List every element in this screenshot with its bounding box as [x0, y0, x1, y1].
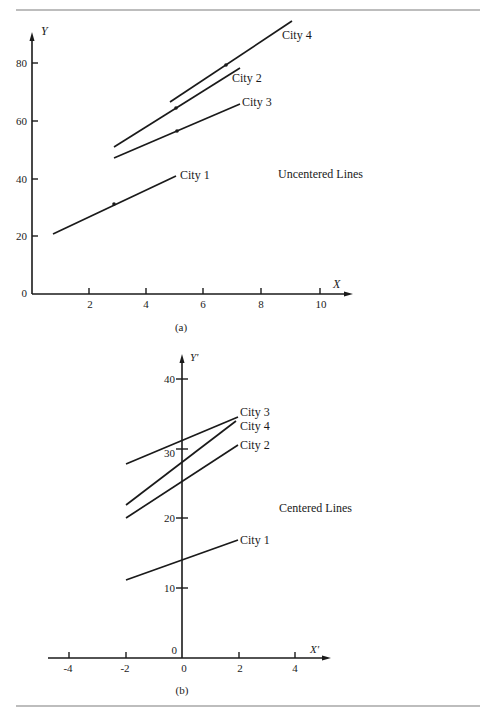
svg-text:40: 40	[16, 173, 28, 185]
svg-text:6: 6	[200, 298, 206, 310]
svg-text:20: 20	[164, 512, 176, 524]
centered-series-labels: City 1 City 2 City 3 City 4	[240, 405, 270, 547]
svg-text:60: 60	[16, 115, 28, 127]
y-ticks	[32, 63, 38, 236]
svg-text:0: 0	[181, 662, 187, 674]
marker-city-1	[112, 202, 116, 206]
svg-text:10: 10	[164, 582, 176, 594]
chart-a-uncentered: Y X 0 20 40 60 80 2 4 6 8 10	[0, 0, 488, 340]
centered-line-city-3	[126, 417, 238, 464]
x-axis-label: X	[332, 277, 341, 291]
marker-city-3	[175, 129, 179, 133]
svg-text:0: 0	[172, 644, 178, 656]
svg-text:4: 4	[143, 298, 149, 310]
svg-text:-2: -2	[120, 662, 129, 674]
centered-chart-title: Centered Lines	[279, 501, 352, 515]
marker-city-2	[174, 106, 178, 110]
marker-city-4	[224, 63, 228, 67]
y-prime-axis-label: Y'	[190, 351, 199, 363]
svg-text:4: 4	[292, 662, 298, 674]
y-prime-axis-arrow-icon	[180, 354, 185, 363]
bottom-rule	[16, 705, 480, 707]
svg-text:2: 2	[237, 662, 243, 674]
centered-line-city-2	[126, 445, 238, 518]
x-prime-ticks	[69, 652, 295, 658]
centered-label-city-1: City 1	[240, 533, 270, 547]
x-prime-axis-arrow-icon	[322, 656, 331, 661]
chart-title: Uncentered Lines	[278, 167, 363, 181]
centered-line-city-4	[126, 421, 236, 505]
x-tick-labels: 2 4 6 8 10	[87, 298, 327, 310]
svg-text:-4: -4	[63, 662, 73, 674]
y-axis-arrow-icon	[30, 32, 35, 41]
centered-label-city-3: City 3	[240, 405, 270, 419]
centered-line-city-1	[126, 540, 238, 580]
x-ticks	[89, 288, 320, 294]
centered-label-city-4: City 4	[240, 419, 270, 433]
y-prime-ticks	[176, 379, 188, 588]
label-city-4: City 4	[282, 28, 312, 42]
y-axis-label: Y	[41, 24, 49, 38]
panel-label-b: (b)	[176, 684, 189, 697]
label-city-3: City 3	[242, 95, 272, 109]
panel-label-a: (a)	[175, 321, 188, 334]
svg-text:0: 0	[22, 287, 28, 299]
svg-text:80: 80	[16, 57, 28, 69]
y-prime-tick-labels: 0 10 20 30 40	[164, 373, 178, 656]
svg-text:10: 10	[316, 298, 328, 310]
line-city-4	[170, 21, 292, 102]
y-tick-labels: 0 20 40 60 80	[16, 57, 28, 299]
x-prime-tick-labels: -4 -2 0 2 4	[63, 662, 298, 674]
label-city-1: City 1	[180, 168, 210, 182]
centered-series-lines	[126, 417, 238, 580]
svg-text:20: 20	[16, 230, 28, 242]
svg-text:8: 8	[258, 298, 264, 310]
centered-label-city-2: City 2	[240, 438, 270, 452]
x-prime-axis-label: X'	[309, 643, 320, 655]
svg-text:2: 2	[87, 298, 93, 310]
series-lines	[53, 21, 292, 234]
svg-text:40: 40	[164, 373, 176, 385]
x-axis-arrow-icon	[344, 292, 353, 297]
label-city-2: City 2	[232, 71, 262, 85]
svg-text:30: 30	[164, 447, 176, 459]
